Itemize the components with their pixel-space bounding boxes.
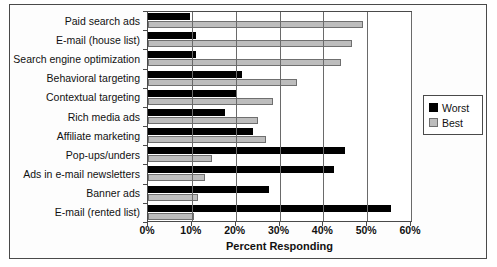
gridline [323, 12, 324, 221]
y-axis-tick [143, 69, 147, 70]
bar-worst [148, 109, 225, 116]
best-swatch-icon [429, 118, 438, 127]
gridline [192, 12, 193, 221]
y-axis-tick [143, 30, 147, 31]
y-axis-tick [143, 203, 147, 204]
bar-worst [148, 186, 269, 193]
y-axis-tick-label: Search engine optimization [13, 53, 140, 65]
x-axis-tick [410, 222, 411, 226]
legend-item-best: Best [429, 115, 482, 130]
bar-best [148, 136, 266, 143]
y-axis-tick [143, 145, 147, 146]
legend-label-best: Best [442, 117, 463, 129]
gridline [367, 12, 368, 221]
bar-best [148, 155, 212, 162]
gridline [411, 12, 412, 221]
y-axis-tick-label: E-mail (rented list) [55, 206, 140, 218]
y-axis-tick-label: Ads in e-mail newsletters [23, 168, 140, 180]
bar-best [148, 98, 273, 105]
bar-worst [148, 166, 334, 173]
x-axis-tick [147, 222, 148, 226]
chart-container: Paid search adsE-mail (house list)Search… [0, 0, 497, 267]
y-axis-tick [143, 184, 147, 185]
gridline [280, 12, 281, 221]
x-axis-tick [279, 222, 280, 226]
worst-swatch-icon [429, 103, 438, 112]
y-axis-tick [143, 107, 147, 108]
bar-best [148, 174, 205, 181]
y-axis-tick-label: Rich media ads [68, 111, 140, 123]
x-axis-tick [322, 222, 323, 226]
bar-best [148, 79, 297, 86]
bar-best [148, 21, 363, 28]
y-axis-tick-label: Affiliate marketing [57, 130, 140, 142]
y-axis-tick-label: Behavioral targeting [47, 72, 140, 84]
chart-legend: Worst Best [423, 95, 483, 135]
plot-area [147, 11, 412, 222]
y-axis-tick-label: Paid search ads [65, 15, 140, 27]
bar-best [148, 213, 194, 220]
y-axis-labels: Paid search adsE-mail (house list)Search… [10, 11, 144, 222]
y-axis-tick [143, 11, 147, 12]
y-axis-tick [143, 126, 147, 127]
bar-worst [148, 128, 253, 135]
bar-worst [148, 32, 196, 39]
legend-label-worst: Worst [442, 102, 469, 114]
bar-best [148, 117, 258, 124]
bar-worst [148, 147, 345, 154]
x-axis-labels: 0%10%20%30%40%50%60% [147, 224, 412, 240]
bar-best [148, 59, 341, 66]
x-axis-title: Percent Responding [147, 240, 412, 252]
y-axis-tick [143, 49, 147, 50]
bar-worst [148, 205, 391, 212]
bar-worst [148, 51, 196, 58]
y-axis-tick [143, 164, 147, 165]
bar-worst [148, 13, 190, 20]
x-axis-tick [191, 222, 192, 226]
gridline [236, 12, 237, 221]
x-axis-tick [235, 222, 236, 226]
y-axis-tick-label: E-mail (house list) [56, 34, 140, 46]
y-axis-tick [143, 88, 147, 89]
legend-item-worst: Worst [429, 100, 482, 115]
bar-best [148, 40, 352, 47]
bar-worst [148, 71, 242, 78]
y-axis-tick-label: Banner ads [86, 187, 140, 199]
y-axis-tick-label: Contextual targeting [46, 91, 140, 103]
y-axis-tick-label: Pop-ups/unders [66, 149, 140, 161]
x-axis-tick [366, 222, 367, 226]
